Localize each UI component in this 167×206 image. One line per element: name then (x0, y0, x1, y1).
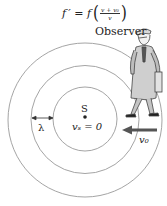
observer-velocity-label: v₀ (139, 134, 149, 145)
wavefront-inner (53, 87, 117, 151)
formula-close-paren: ) (121, 4, 127, 22)
doppler-formula: f ′ = f ( v + v₀ v ) (62, 2, 132, 24)
observer-figure-icon (126, 29, 162, 117)
formula-open-paren: ( (93, 4, 99, 22)
observer-label: Observer (95, 25, 146, 38)
wavefront-middle (31, 66, 139, 174)
formula-fraction: v + v₀ v (100, 6, 120, 21)
source-dot (83, 115, 87, 119)
formula-denominator: v (108, 14, 111, 21)
formula-lhs: f ′ = f (62, 7, 91, 20)
wavelength-arrow-icon (32, 116, 53, 120)
wavelength-label: λ (38, 122, 44, 133)
formula-numerator: v + v₀ (100, 6, 120, 14)
source-velocity-label: vₛ = 0 (72, 121, 102, 132)
source-label: S (81, 103, 88, 114)
